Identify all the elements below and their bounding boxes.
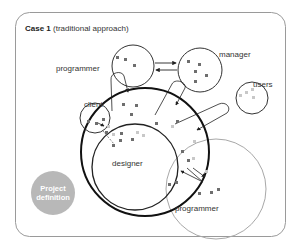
users-label: users [253,80,273,89]
programmer-bottom-label: programmer [175,204,219,213]
project-definition-label-2: definition [36,193,70,202]
diagram-title: Case 1 (traditional approach) [25,24,129,33]
designer-label: designer [112,159,143,168]
programmer-top-label: programmer [56,64,100,73]
case1-diagram: Case 1 (traditional approach) Project de… [0,0,301,245]
project-definition-label-1: Project [40,184,66,193]
manager-label: manager [219,50,251,59]
client-label: client [84,100,103,109]
